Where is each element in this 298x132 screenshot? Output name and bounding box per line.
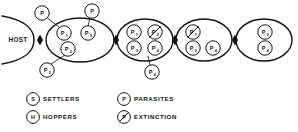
stage-1: P1P3P2PPP2 xyxy=(35,4,114,77)
node-s1-p1: P1 xyxy=(57,26,71,40)
stage-4: P3P4 xyxy=(236,19,292,61)
node-s4-p4: P4 xyxy=(258,41,272,55)
node-letter: P xyxy=(152,45,156,51)
stage-3: P1P3P4 xyxy=(176,19,232,61)
legend-extinction: PEXTINCTION xyxy=(118,111,177,124)
legend-hoppers-glyph: H xyxy=(31,114,35,120)
node-subscript: 1 xyxy=(195,32,198,37)
node-letter: P xyxy=(190,45,194,51)
node-letter: P xyxy=(44,67,48,73)
legend: SSETTLERSHHOPPERSPPARASITESPEXTINCTION xyxy=(27,93,177,124)
legend-settlers-label: SETTLERS xyxy=(43,95,80,102)
node-subscript: 4 xyxy=(154,72,157,77)
node-s2-p1: P1 xyxy=(127,25,141,39)
host-shape: HOST xyxy=(2,16,34,64)
node-s3-p4: P4 xyxy=(206,41,220,55)
node-s1-p2: P2 xyxy=(61,42,75,56)
node-sat-s2-p4: P4 xyxy=(145,65,159,79)
legend-hoppers: HHOPPERS xyxy=(27,111,78,124)
host-to-stage-1 xyxy=(37,35,43,46)
node-letter: P xyxy=(85,30,89,36)
node-subscript: 3 xyxy=(195,48,198,53)
node-subscript: 1 xyxy=(136,32,139,37)
legend-extinction-label: EXTINCTION xyxy=(134,113,177,120)
parasite-succession-diagram: HOST P1P3P2PPP2P1P2P3P4P4P1P3P4P3P4 SSET… xyxy=(0,0,298,132)
node-sat-s1-p: P xyxy=(35,6,49,20)
node-s3-p1: P1 xyxy=(186,25,200,39)
node-subscript: 4 xyxy=(267,48,270,53)
node-letter: P xyxy=(131,45,135,51)
legend-settlers-glyph: S xyxy=(31,96,35,102)
host-label: HOST xyxy=(8,36,27,43)
legend-hoppers-label: HOPPERS xyxy=(43,113,77,120)
node-subscript: 3 xyxy=(136,48,139,53)
node-s1-p3: P3 xyxy=(81,26,95,40)
node-letter: P xyxy=(210,45,214,51)
node-s2-p4: P4 xyxy=(148,41,162,55)
node-s4-p3: P3 xyxy=(258,25,272,39)
node-s3-p3: P3 xyxy=(186,41,200,55)
stage-ellipses: P1P3P2PPP2P1P2P3P4P4P1P3P4P3P4 xyxy=(35,4,292,79)
node-letter: P xyxy=(149,69,153,75)
legend-parasites-label: PARASITES xyxy=(134,95,174,102)
node-subscript: 2 xyxy=(70,49,73,54)
node-subscript: 3 xyxy=(90,33,93,38)
node-letter: P xyxy=(262,45,266,51)
node-letter: P xyxy=(65,46,69,52)
legend-settlers: SSETTLERS xyxy=(27,93,80,106)
node-subscript: 4 xyxy=(215,48,218,53)
stage-2-boundary xyxy=(117,19,173,61)
node-sat-s1-p-top-right: P xyxy=(85,4,99,18)
legend-parasites: PPARASITES xyxy=(118,93,174,106)
node-subscript: 2 xyxy=(49,70,52,75)
stage-2: P1P2P3P4P4 xyxy=(117,19,173,79)
node-subscript: 4 xyxy=(157,48,160,53)
node-letter: P xyxy=(262,29,266,35)
figure-root: HOST P1P3P2PPP2P1P2P3P4P4P1P3P4P3P4 SSET… xyxy=(0,0,298,132)
node-letter: P xyxy=(40,10,44,16)
stage-3-boundary xyxy=(176,19,232,61)
node-subscript: 3 xyxy=(267,32,270,37)
node-letter: P xyxy=(61,30,65,36)
node-subscript: 2 xyxy=(157,32,160,37)
node-subscript: 1 xyxy=(66,33,69,38)
node-letter: P xyxy=(90,8,94,14)
node-sat-s1-p2-below: P2 xyxy=(40,63,54,77)
node-s2-p2: P2 xyxy=(148,25,162,39)
node-letter: P xyxy=(131,29,135,35)
legend-parasites-glyph: P xyxy=(122,96,126,102)
node-s2-p3: P3 xyxy=(127,41,141,55)
